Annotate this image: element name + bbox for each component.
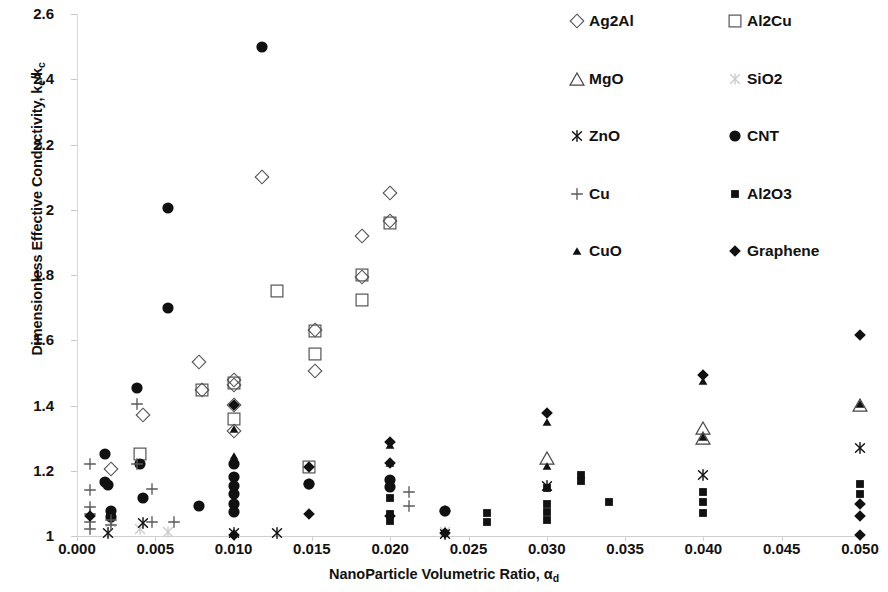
- plus-icon: [566, 185, 588, 203]
- legend-item-zno[interactable]: ZnO: [566, 127, 724, 145]
- data-point-cnt: [105, 504, 118, 517]
- x-tick-mark: [390, 536, 391, 541]
- x-axis-title-sub-d: d: [553, 573, 559, 584]
- data-point-al2cu: [301, 459, 316, 474]
- data-point-cnt: [227, 470, 240, 483]
- data-point-zno: [102, 527, 115, 540]
- y-tick-label: 1.4: [12, 397, 54, 414]
- data-point-cnt: [193, 499, 206, 512]
- data-point-al2cu: [308, 346, 323, 361]
- data-point-cnt: [161, 202, 174, 215]
- y-tick-label: 2.6: [12, 5, 54, 22]
- legend-label: Al2O3: [747, 185, 792, 203]
- y-tick-label: 1.2: [12, 462, 54, 479]
- y-tick-mark: [71, 145, 77, 146]
- x-tick-mark: [547, 536, 548, 541]
- filled-diamond-icon: [724, 242, 746, 260]
- data-point-cnt: [102, 479, 115, 492]
- data-point-al2o3: [542, 500, 551, 509]
- legend-item-sio2[interactable]: SiO2: [724, 70, 882, 88]
- data-point-cnt: [133, 457, 146, 470]
- data-point-cu: [402, 485, 415, 498]
- data-point-al2o3: [542, 483, 551, 492]
- legend-item-cnt[interactable]: CNT: [724, 127, 882, 145]
- data-point-al2o3: [699, 497, 708, 506]
- open-triangle-icon: [566, 70, 588, 88]
- data-point-ag2al: [191, 354, 207, 370]
- data-point-ag2al: [382, 185, 398, 201]
- data-point-ag2al: [226, 377, 242, 393]
- legend-item-al2cu[interactable]: Al2Cu: [724, 12, 882, 30]
- data-point-al2o3: [699, 508, 708, 517]
- data-point-graphene: [697, 368, 710, 381]
- legend-item-ag2al[interactable]: Ag2Al: [566, 12, 724, 30]
- data-point-graphene: [302, 507, 315, 520]
- data-point-graphene: [854, 509, 867, 522]
- data-point-cuo: [855, 399, 865, 408]
- open-square-icon: [724, 12, 746, 30]
- y-axis-tick-labels: 11.21.41.61.822.22.42.6: [8, 0, 54, 592]
- legend-item-mgo[interactable]: MgO: [566, 70, 724, 88]
- data-point-graphene: [439, 504, 452, 517]
- data-point-al2cu: [308, 324, 323, 339]
- data-point-cnt: [255, 40, 268, 53]
- legend-item-cuo[interactable]: CuO: [566, 242, 724, 260]
- data-point-graphene: [384, 456, 397, 469]
- y-tick-label: 1.6: [12, 331, 54, 348]
- x-tick-mark: [469, 536, 470, 541]
- legend-row: MgOSiO2: [566, 70, 882, 128]
- data-point-cnt: [227, 505, 240, 518]
- data-point-cuo: [542, 418, 552, 427]
- data-point-cu: [130, 397, 143, 410]
- data-point-ag2al: [307, 363, 323, 379]
- data-point-al2cu: [383, 216, 398, 231]
- legend-row: Ag2AlAl2Cu: [566, 12, 882, 70]
- data-point-cnt: [105, 511, 118, 524]
- y-tick-mark: [71, 210, 77, 211]
- open-diamond-icon: [566, 12, 588, 30]
- data-point-cuo: [385, 458, 395, 467]
- data-point-al2o3: [856, 480, 865, 489]
- x-tick-label: 0.030: [507, 540, 587, 557]
- data-point-cnt: [227, 480, 240, 493]
- data-point-cnt: [439, 504, 452, 517]
- data-point-cuo: [385, 441, 395, 450]
- data-point-mgo: [539, 450, 555, 465]
- data-point-zno: [439, 528, 452, 541]
- data-point-ag2al: [103, 461, 119, 477]
- data-point-al2o3: [386, 517, 395, 526]
- data-point-cnt: [99, 476, 112, 489]
- data-point-cnt: [227, 498, 240, 511]
- data-point-zno: [540, 480, 553, 493]
- data-point-cnt: [136, 491, 149, 504]
- data-point-sio2: [133, 522, 146, 535]
- data-point-al2o3: [577, 477, 586, 486]
- filled-circle-icon: [724, 127, 746, 145]
- x-tick-label: 0.050: [820, 540, 888, 557]
- data-point-graphene: [439, 527, 452, 540]
- data-point-graphene: [83, 509, 96, 522]
- legend-label: CuO: [589, 242, 622, 260]
- data-point-graphene: [384, 436, 397, 449]
- legend-label: SiO2: [747, 70, 782, 88]
- x-tick-label: 0.040: [663, 540, 743, 557]
- legend-item-graphene[interactable]: Graphene: [724, 242, 882, 260]
- data-point-zno: [854, 441, 867, 454]
- data-point-al2cu: [226, 411, 241, 426]
- data-point-zno: [136, 516, 149, 529]
- x-asterisk-icon: [566, 127, 588, 145]
- legend-label: Cu: [589, 185, 610, 203]
- legend-row: CuOGraphene: [566, 242, 882, 300]
- legend-item-cu[interactable]: Cu: [566, 185, 724, 203]
- data-point-mgo: [695, 431, 711, 446]
- data-point-zno: [697, 468, 710, 481]
- data-point-cnt: [384, 473, 397, 486]
- x-tick-mark: [782, 536, 783, 541]
- data-point-al2o3: [605, 497, 614, 506]
- y-tick-label: 1.8: [12, 266, 54, 283]
- data-point-graphene: [227, 398, 240, 411]
- data-point-cu: [83, 522, 96, 535]
- legend-item-al2o3[interactable]: Al2O3: [724, 185, 882, 203]
- x-tick-mark: [625, 536, 626, 541]
- data-point-graphene: [854, 498, 867, 511]
